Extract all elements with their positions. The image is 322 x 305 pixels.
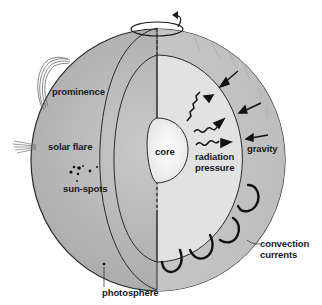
label-currents: currents (260, 249, 297, 260)
label-pressure: pressure (195, 162, 234, 173)
label-solar-flare: solar flare (48, 141, 92, 152)
label-photosphere: photosphere (102, 287, 158, 298)
label-sun-spots: sun-spots (63, 183, 108, 194)
label-convection: convection (260, 238, 309, 249)
label-radiation: radiation (195, 151, 234, 162)
label-gravity: gravity (247, 143, 277, 154)
label-core: core (155, 146, 175, 157)
label-prominence: prominence (52, 86, 105, 97)
